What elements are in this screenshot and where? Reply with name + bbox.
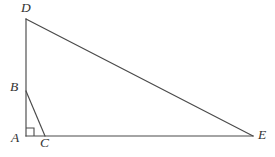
vertex-label-a: A — [11, 131, 19, 145]
vertex-label-e: E — [258, 128, 266, 142]
segment-DE — [26, 19, 253, 136]
right-angle-marker-icon — [26, 128, 34, 136]
vertex-label-c: C — [40, 136, 49, 150]
vertex-label-b: B — [10, 80, 18, 94]
geometry-figure: D B A C E — [0, 0, 275, 157]
vertex-label-d: D — [21, 1, 31, 15]
segment-BC — [26, 91, 45, 136]
figure-canvas — [0, 0, 275, 157]
